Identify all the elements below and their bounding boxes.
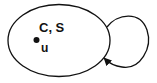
point-label: u xyxy=(41,41,48,55)
state-label: C, S xyxy=(39,20,65,35)
state-ellipse xyxy=(8,5,110,77)
state-diagram: C, S u xyxy=(0,0,157,83)
self-loop-arrow xyxy=(105,16,148,67)
point-marker xyxy=(34,37,40,43)
